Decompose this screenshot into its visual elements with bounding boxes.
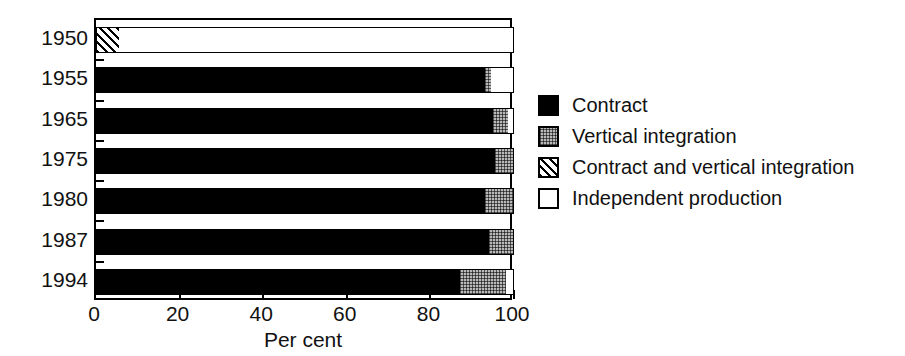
y-axis-tick: [95, 220, 104, 222]
y-axis-label-1950: 1950: [26, 27, 88, 48]
x-axis-tick-label-20: 20: [148, 303, 208, 325]
gray-stipple-swatch: [538, 126, 559, 147]
bar-row: [96, 148, 510, 174]
x-axis-tick: [262, 290, 264, 299]
bar-segment-vertical: [485, 188, 514, 214]
y-axis-tick: [95, 180, 104, 182]
legend-label: Independent production: [572, 188, 782, 209]
plot-inner: [96, 20, 510, 298]
bar-row: [96, 269, 510, 295]
bar-segment-contract: [96, 269, 460, 295]
chart-legend: ContractVertical integrationContract and…: [538, 90, 898, 214]
bar-segment-vertical: [493, 108, 508, 134]
y-axis-label-1965: 1965: [26, 108, 88, 129]
bar-segment-independent: [119, 27, 514, 53]
legend-item: Independent production: [538, 183, 898, 214]
legend-label: Vertical integration: [572, 126, 737, 147]
plot-area: [94, 18, 512, 300]
bar-segment-contract: [96, 229, 489, 255]
x-axis-tick: [429, 290, 431, 299]
bar-segment-both: [96, 27, 119, 53]
bar-segment-contract: [96, 148, 495, 174]
y-axis-category-labels: 1950195519651975198019871994: [22, 0, 88, 302]
bar-segment-contract: [96, 67, 485, 93]
bar-row: [96, 27, 510, 53]
bar-row: [96, 188, 510, 214]
x-axis-title: Per cent: [94, 329, 512, 351]
diagonal-hatch-swatch: [538, 157, 559, 178]
bar-row: [96, 67, 510, 93]
y-axis-label-1975: 1975: [26, 148, 88, 169]
bar-segment-contract: [96, 188, 485, 214]
x-axis-tick: [346, 290, 348, 299]
y-axis-tick: [95, 59, 104, 61]
y-axis-label-1987: 1987: [26, 229, 88, 250]
bar-segment-contract: [96, 108, 493, 134]
legend-label: Contract and vertical integration: [572, 157, 854, 178]
x-axis-tick-label-60: 60: [315, 303, 375, 325]
x-axis-tick: [179, 290, 181, 299]
bar-segment-vertical: [495, 148, 514, 174]
legend-label: Contract: [572, 95, 648, 116]
y-axis-tick: [95, 140, 104, 142]
y-axis-label-1980: 1980: [26, 188, 88, 209]
y-axis-tick: [95, 261, 104, 263]
y-axis-label-1994: 1994: [26, 269, 88, 290]
y-axis-tick: [95, 100, 104, 102]
x-axis-tick-label-100: 100: [482, 303, 542, 325]
bar-segment-vertical: [460, 269, 506, 295]
y-axis-label-1955: 1955: [26, 67, 88, 88]
bar-segment-independent: [491, 67, 514, 93]
bar-row: [96, 229, 510, 255]
bar-segment-vertical: [489, 229, 514, 255]
x-axis-tick-label-80: 80: [398, 303, 458, 325]
legend-item: Contract: [538, 90, 898, 121]
solid-black-swatch: [538, 95, 559, 116]
white-swatch: [538, 188, 559, 209]
legend-item: Vertical integration: [538, 121, 898, 152]
x-axis-tick-label-0: 0: [64, 303, 124, 325]
bar-row: [96, 108, 510, 134]
x-axis-tick: [513, 290, 515, 299]
bar-segment-independent: [508, 108, 514, 134]
x-axis-tick-label-40: 40: [231, 303, 291, 325]
legend-item: Contract and vertical integration: [538, 152, 898, 183]
stacked-bar-chart: 1950195519651975198019871994 02040608010…: [0, 0, 905, 356]
